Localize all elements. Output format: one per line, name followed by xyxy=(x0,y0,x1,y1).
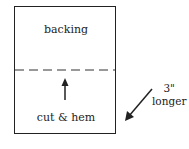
side-note: 3" longer xyxy=(152,82,186,108)
side-note-measure: 3" xyxy=(152,82,186,95)
side-note-text: longer xyxy=(152,95,186,108)
diagram-lines xyxy=(0,0,189,149)
up-arrow-icon xyxy=(62,78,69,100)
diagonal-arrow-icon xyxy=(125,89,152,121)
